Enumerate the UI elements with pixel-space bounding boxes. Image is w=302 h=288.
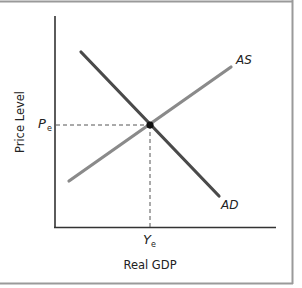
equilibrium-point <box>146 121 153 128</box>
price-equilibrium-label: P <box>38 116 46 131</box>
y-axis-title: Price Level <box>13 91 27 153</box>
as-label: AS <box>235 53 252 67</box>
output-equilibrium-subscript: e <box>151 240 156 249</box>
x-axis-title: Real GDP <box>123 258 176 272</box>
ad-label: AD <box>220 198 238 212</box>
diagram-frame: AS AD P e Y e Real GDP Price Level <box>0 0 302 288</box>
price-equilibrium-subscript: e <box>47 124 52 133</box>
ad-as-diagram: AS AD P e Y e Real GDP Price Level <box>0 0 302 288</box>
